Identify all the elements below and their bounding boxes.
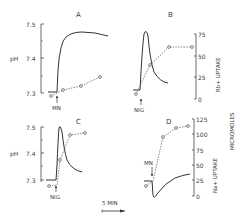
panel-c-ylabel: pH xyxy=(10,150,18,158)
panel-d: D 125 100 75 50 25 0 Na+ UPTAKE MN xyxy=(144,116,218,200)
figure-canvas: A 7.5 7.4 7.3 pH MN B 75 50 25 0 Rb+ xyxy=(0,0,242,223)
panel-d-ytick-125: 125 xyxy=(196,116,208,123)
data-point xyxy=(162,136,165,139)
data-point xyxy=(59,159,62,162)
common-right-label: MICROMOLES xyxy=(229,112,235,150)
scale-bar-label: 5 MIN xyxy=(102,200,118,206)
panel-c-title: C xyxy=(76,118,81,126)
panel-d-ph-trace xyxy=(144,174,190,197)
data-point xyxy=(149,64,152,67)
data-point xyxy=(62,89,65,92)
panel-b-stimulus-label: NIG xyxy=(134,107,144,113)
panel-b-ytick-25: 25 xyxy=(198,74,206,81)
panel-a: A 7.5 7.4 7.3 pH MN xyxy=(10,11,108,111)
panel-b-ytick-50: 50 xyxy=(198,53,206,60)
data-point xyxy=(69,134,72,137)
panel-a-ytick-74: 7.4 xyxy=(26,55,36,62)
data-point xyxy=(187,125,190,128)
data-point xyxy=(145,185,148,188)
panel-b-uptake-trace xyxy=(136,47,192,94)
panel-b-ylabel: Rb+ UPTAKE xyxy=(215,57,221,92)
panel-c-ph-trace xyxy=(46,127,82,180)
panel-d-uptake-trace xyxy=(146,126,188,186)
data-point xyxy=(99,76,102,79)
panel-d-title: D xyxy=(166,118,171,126)
panel-c-ytick-75: 7.5 xyxy=(26,124,36,131)
panel-a-title: A xyxy=(76,11,81,19)
panel-b: B 75 50 25 0 Rb+ UPTAKE NIG xyxy=(133,11,221,113)
panel-d-ytick-75: 75 xyxy=(196,147,204,154)
panel-a-ph-trace xyxy=(48,32,108,92)
data-point xyxy=(135,93,138,96)
panel-c-ytick-73: 7.3 xyxy=(26,177,36,184)
panel-a-ytick-75: 7.5 xyxy=(26,21,36,28)
panel-b-ytick-75: 75 xyxy=(198,31,206,38)
panel-a-ylabel: pH xyxy=(10,55,18,63)
panel-d-ytick-100: 100 xyxy=(196,131,208,138)
panel-b-ytick-0: 0 xyxy=(198,96,202,103)
panel-b-title: B xyxy=(168,11,173,19)
data-point xyxy=(84,132,87,135)
panel-d-ytick-25: 25 xyxy=(196,177,204,184)
data-point xyxy=(168,46,171,49)
panel-d-ytick-0: 0 xyxy=(196,193,200,200)
panel-a-ytick-73: 7.3 xyxy=(26,90,36,97)
time-scale-bar: 5 MIN xyxy=(102,200,125,213)
data-point xyxy=(191,46,194,49)
data-point xyxy=(50,95,53,98)
panel-a-uptake-trace xyxy=(51,77,100,96)
data-point xyxy=(80,85,83,88)
data-point xyxy=(48,185,51,188)
panel-c-stimulus-label: NIG xyxy=(50,194,60,200)
panel-b-ph-trace xyxy=(133,31,168,90)
panel-d-ytick-50: 50 xyxy=(196,162,204,169)
panel-c: C 7.5 7.4 7.3 pH NIG xyxy=(10,118,86,200)
panel-c-ytick-74: 7.4 xyxy=(26,150,36,157)
panel-d-stimulus-label: MN xyxy=(144,160,153,166)
data-point xyxy=(175,127,178,130)
panel-d-ylabel: Na+ UPTAKE xyxy=(212,158,218,193)
panel-a-stimulus-label: MN xyxy=(52,105,61,111)
